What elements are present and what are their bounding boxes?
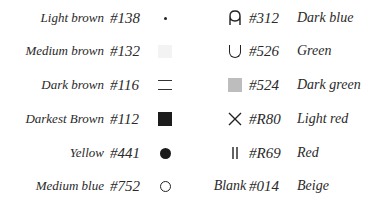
color-name: Light brown bbox=[41, 10, 104, 26]
filled-square-icon bbox=[157, 105, 173, 133]
color-code: #116 bbox=[110, 77, 139, 94]
legend-row-dark-blue: #312 Dark blue bbox=[215, 4, 374, 32]
s-u-glyph-icon bbox=[220, 4, 250, 32]
color-name: Medium blue bbox=[36, 178, 104, 194]
legend-row-light-brown: Light brown #138 bbox=[0, 4, 180, 32]
legend-row-beige: Blank #014 Beige bbox=[215, 172, 374, 200]
color-name: Green bbox=[297, 43, 331, 59]
color-name: Red bbox=[297, 145, 319, 161]
color-code: #524 bbox=[249, 77, 279, 94]
color-code: #138 bbox=[110, 10, 140, 27]
color-code: #112 bbox=[110, 111, 139, 128]
double-vertical-bar-icon bbox=[220, 139, 250, 167]
color-code: #441 bbox=[110, 145, 140, 162]
legend-row-dark-brown: Dark brown #116 bbox=[0, 71, 180, 99]
blank-symbol-label: Blank bbox=[207, 172, 253, 200]
color-name: Dark brown bbox=[41, 77, 104, 93]
color-name: Beige bbox=[297, 178, 329, 194]
color-code: #R80 bbox=[249, 111, 281, 128]
color-name: Yellow bbox=[70, 145, 104, 161]
legend-row-darkest-brown: Darkest Brown #112 bbox=[0, 105, 180, 133]
color-name: Darkest Brown bbox=[25, 111, 104, 127]
color-code: #526 bbox=[249, 43, 279, 60]
small-dot-icon bbox=[157, 4, 173, 32]
legend-row-green: #526 Green bbox=[215, 37, 374, 65]
color-name: Light red bbox=[297, 111, 348, 127]
color-code: #R69 bbox=[249, 145, 281, 162]
x-cross-icon bbox=[220, 105, 250, 133]
legend-row-medium-brown: Medium brown #132 bbox=[0, 37, 180, 65]
color-code: #312 bbox=[249, 10, 279, 27]
color-code: #014 bbox=[249, 178, 279, 195]
filled-circle-icon bbox=[157, 139, 173, 167]
legend-row-medium-blue: Medium blue #752 bbox=[0, 172, 180, 200]
legend-row-red: #R69 Red bbox=[215, 139, 374, 167]
color-name: Dark green bbox=[297, 77, 361, 93]
color-name: Dark blue bbox=[297, 10, 353, 26]
double-line-icon bbox=[157, 71, 173, 99]
light-square-icon bbox=[157, 37, 173, 65]
color-name: Medium brown bbox=[25, 43, 104, 59]
grey-square-icon bbox=[220, 71, 250, 99]
legend-row-yellow: Yellow #441 bbox=[0, 139, 180, 167]
color-code: #752 bbox=[110, 178, 140, 195]
legend-row-dark-green: #524 Dark green bbox=[215, 71, 374, 99]
color-code: #132 bbox=[110, 43, 140, 60]
legend-row-light-red: #R80 Light red bbox=[215, 105, 374, 133]
u-glyph-icon bbox=[220, 37, 250, 65]
open-circle-icon bbox=[157, 172, 173, 200]
